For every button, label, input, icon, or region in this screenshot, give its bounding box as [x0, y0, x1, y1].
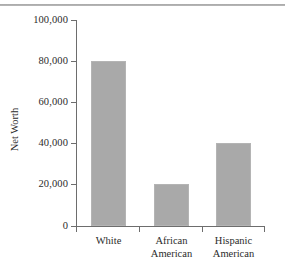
- x-tick-end: [264, 227, 265, 232]
- x-tick-div-2: [202, 227, 203, 232]
- bar-african-american: [154, 184, 189, 226]
- y-axis-title-text: Net Worth: [10, 107, 21, 151]
- y-tick-label-40000: 40,000: [39, 137, 68, 148]
- x-tick-div-1: [139, 227, 140, 232]
- y-tick-label-80000: 80,000: [39, 55, 68, 66]
- y-tick-label-0: 0: [63, 220, 68, 231]
- x-axis-line: [76, 226, 265, 227]
- x-label-african-american: African American: [141, 234, 202, 260]
- y-tick-20000: [71, 184, 77, 185]
- y-tick-60000: [71, 102, 77, 103]
- y-tick-80000: [71, 61, 77, 62]
- y-tick-100000: [71, 20, 77, 21]
- y-tick-label-60000: 60,000: [39, 96, 68, 107]
- y-axis-line: [76, 20, 77, 227]
- bar-hispanic-american: [216, 143, 251, 226]
- bar-chart-figure: 100,000 80,000 60,000 40,000 20,000 0 Ne…: [0, 0, 285, 271]
- x-label-white: White: [78, 234, 139, 247]
- y-tick-label-100000: 100,000: [33, 14, 68, 25]
- x-tick-start: [76, 227, 77, 232]
- y-axis-title: Net Worth: [4, 94, 26, 164]
- bar-white: [91, 61, 126, 226]
- y-tick-label-20000: 20,000: [39, 178, 68, 189]
- x-label-hispanic-american: Hispanic American: [203, 234, 264, 260]
- y-tick-40000: [71, 143, 77, 144]
